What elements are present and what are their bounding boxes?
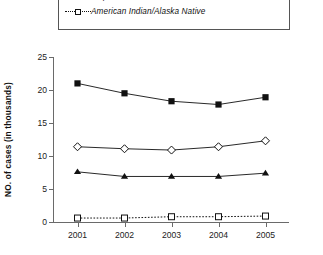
x-axis-tick-label: 2003 <box>162 230 181 240</box>
y-axis-tick-label: 20 <box>37 85 47 95</box>
data-point <box>74 168 81 174</box>
x-axis-tick-label: 2005 <box>256 230 275 240</box>
x-axis-tick-label: 2002 <box>115 230 134 240</box>
x-axis-tick <box>125 222 126 227</box>
data-point <box>74 80 80 86</box>
legend-label-american-indian-alaska-native: American Indian/Alaska Native <box>91 7 205 17</box>
legend-entry-american-indian-alaska-native: American Indian/Alaska Native <box>65 6 205 17</box>
series-unlabeled-1 <box>74 137 270 154</box>
y-axis-tick-label: 5 <box>42 184 47 194</box>
y-axis-tick <box>49 90 54 91</box>
y-axis-tick-label: 0 <box>42 217 47 227</box>
x-axis-tick <box>172 222 173 227</box>
legend-label-asian-pacific-islander: Asian/Pacific Islander <box>203 0 283 2</box>
data-point <box>121 145 129 153</box>
legend-label-hispanic: Hispanic <box>91 0 123 2</box>
y-axis-tick <box>49 57 54 58</box>
data-point <box>215 101 221 107</box>
data-point <box>262 170 269 176</box>
x-axis-tick <box>78 222 79 227</box>
y-axis-tick <box>49 222 54 223</box>
data-point <box>262 137 270 145</box>
legend-row-2: American Indian/Alaska Native <box>65 4 283 19</box>
data-point <box>122 215 128 221</box>
y-axis-tick-label: 25 <box>37 52 47 62</box>
chart-legend: Hispanic Asian/Pacific Islander American… <box>58 0 290 30</box>
line-chart: Hispanic Asian/Pacific Islander American… <box>0 0 323 255</box>
series-asian-pacific-islander <box>74 80 268 107</box>
data-point <box>75 215 81 221</box>
series-hispanic <box>74 168 269 178</box>
legend-entry-hispanic: Hispanic <box>65 0 177 2</box>
legend-entry-asian-pacific-islander: Asian/Pacific Islander <box>177 0 283 2</box>
data-point <box>121 90 127 96</box>
series-american-indian-alaska-native <box>75 213 269 221</box>
y-axis-label: NO. of cases (in thousands) <box>2 57 14 222</box>
data-point <box>169 214 175 220</box>
data-point <box>168 173 175 179</box>
data-point <box>74 143 82 151</box>
y-axis-tick-label: 15 <box>37 118 47 128</box>
square-open-icon <box>65 6 91 17</box>
square-filled-icon <box>177 0 203 2</box>
y-axis-tick-label: 10 <box>37 151 47 161</box>
x-axis-tick <box>266 222 267 227</box>
y-axis-tick <box>49 156 54 157</box>
x-axis-tick-label: 2004 <box>209 230 228 240</box>
series-layer <box>54 57 289 222</box>
x-axis-tick <box>219 222 220 227</box>
data-point <box>216 214 222 220</box>
data-point <box>168 98 174 104</box>
data-point <box>215 143 223 151</box>
data-point <box>263 213 269 219</box>
x-axis-tick-label: 2001 <box>68 230 87 240</box>
triangle-filled-icon <box>65 0 91 2</box>
y-axis-tick <box>49 123 54 124</box>
data-point <box>262 94 268 100</box>
data-point <box>168 146 176 154</box>
plot-area: 051015202520012002200320042005 <box>53 57 289 223</box>
y-axis-tick <box>49 189 54 190</box>
